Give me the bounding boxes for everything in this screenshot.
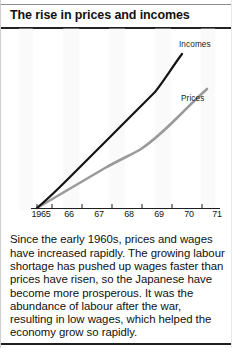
x-tick-label-71: 71 — [212, 209, 222, 219]
series-label-incomes: Incomes — [179, 40, 211, 49]
x-tick-label-70: 70 — [184, 209, 194, 219]
x-tick-label-69: 69 — [154, 209, 164, 219]
chart-svg — [1, 28, 232, 218]
background-bands — [19, 28, 215, 210]
page-title: The rise in prices and incomes — [10, 8, 224, 23]
x-tick-label-68: 68 — [124, 209, 134, 219]
x-axis-tick-labels: 1965 66 67 68 69 70 71 — [1, 209, 232, 223]
line-chart: Incomes Prices — [1, 28, 232, 218]
x-tick-label-66: 66 — [64, 209, 74, 219]
top-rule — [1, 4, 231, 5]
bottom-rule — [1, 343, 231, 345]
figure-panel: The rise in prices and incomes — [0, 0, 232, 348]
caption-text: Since the early 1960s, prices and wages … — [10, 233, 226, 339]
x-tick-label-67: 67 — [94, 209, 104, 219]
series-label-prices: Prices — [181, 94, 204, 103]
x-tick-label-1965: 1965 — [31, 209, 50, 219]
